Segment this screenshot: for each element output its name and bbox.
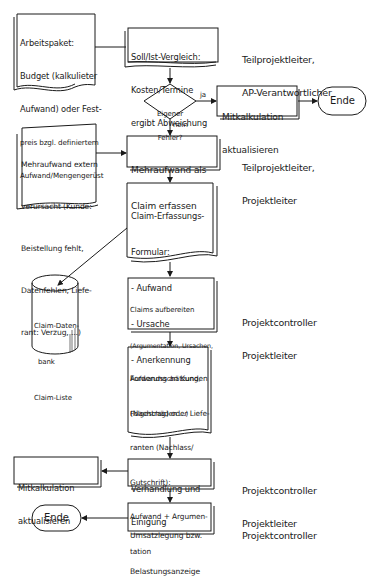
ende-bottom-label: Ende bbox=[44, 512, 69, 523]
mehraufwand-extern-line: Mehraufwand extern bbox=[21, 158, 98, 172]
role-annotation-aufbereiten: Projektcontroller Projektleiter bbox=[242, 295, 317, 372]
forderung-line: ranten (Nachlass/ bbox=[130, 442, 210, 454]
mitkalk-top-line: Mitkalkulation bbox=[222, 112, 283, 123]
arbeitspaket-line: Arbeitspaket: bbox=[20, 38, 103, 49]
role-line: Teilprojektleiter, bbox=[242, 54, 332, 65]
mehraufwand-extern-line: verursacht (Kunde: bbox=[21, 200, 98, 214]
role-line: Projektcontroller bbox=[242, 317, 317, 328]
edge-label-yes: ja bbox=[200, 91, 206, 99]
role-line: Teilprojektleiter, bbox=[242, 162, 315, 173]
claim-db-text: Claim-Daten- bank Claim-Liste bbox=[34, 296, 79, 416]
umsatzlegung-line: Umsatzlegung bzw. bbox=[130, 530, 202, 542]
role-line: Projektleiter bbox=[242, 195, 315, 206]
edge-label-no: nein bbox=[173, 121, 188, 129]
role-line: Projektleiter bbox=[242, 350, 317, 361]
mehraufwand-claim-line: Mehraufwand als bbox=[131, 164, 206, 176]
forderung-line: (Nachtrag) oder Liefe- bbox=[130, 408, 210, 420]
role-line: AP-Verantwortlicher bbox=[242, 87, 332, 98]
role-line: Projektcontroller bbox=[242, 530, 317, 541]
role-annotation-sollist: Teilprojektleiter, AP-Verantwortlicher bbox=[242, 32, 332, 109]
claim-formular-line: Claim-Erfassungs- bbox=[131, 210, 204, 222]
role-annotation-umsatzlegung: Projektcontroller bbox=[242, 508, 317, 552]
claim-formular-line: Formular: bbox=[131, 246, 204, 258]
claim-db-line: Claim-Daten- bbox=[34, 320, 79, 332]
umsatzlegung-text: Umsatzlegung bzw. Belastungsanzeige bbox=[130, 506, 202, 580]
claim-db-line: Claim-Liste bbox=[34, 392, 79, 404]
verhandlung-line: Verhandlung und bbox=[131, 484, 200, 495]
arbeitspaket-line: Aufwand) oder Fest- bbox=[20, 104, 103, 115]
decision-line: Eigener bbox=[156, 110, 184, 118]
umsatzlegung-line: Belastungsanzeige bbox=[130, 566, 202, 578]
mitkalk-bottom-text: Mitkalkulation aktualisieren bbox=[18, 461, 74, 538]
sollist-line: Soll/Ist-Vergleich: bbox=[131, 52, 207, 63]
claims-aufbereiten-line: Claims aufbereiten bbox=[130, 305, 213, 317]
role-line: Projektcontroller bbox=[242, 485, 317, 496]
claim-db-line: bank bbox=[34, 356, 79, 368]
mehraufwand-extern-line: Beistellung fehlt, bbox=[21, 242, 98, 256]
forderung-line: Forderung an Kunden bbox=[130, 373, 210, 385]
mitkalk-bottom-line: Mitkalkulation bbox=[18, 483, 74, 494]
ende-top-label: Ende bbox=[330, 95, 355, 106]
arbeitspaket-line: Budget (kalkulieter bbox=[20, 71, 103, 82]
role-annotation-claim: Teilprojektleiter, Projektleiter bbox=[242, 140, 315, 217]
